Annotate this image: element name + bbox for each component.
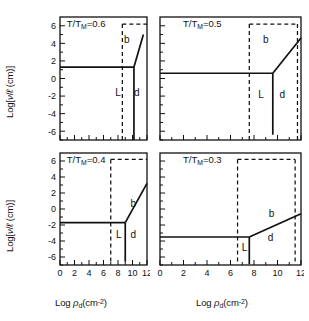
x-tick-label: 12 <box>296 268 304 278</box>
plot-svg-bottom-left: 6420-2-4-6024681012bLdT/TM=0.4 <box>38 150 150 281</box>
plot-panel-top-right: bLdT/TM=0.5 <box>154 14 304 145</box>
y-tick-label: -6 <box>48 127 56 137</box>
region-label-d: d <box>130 229 136 240</box>
y-tick-label: 6 <box>51 156 56 166</box>
region-label-d: d <box>134 87 140 98</box>
x-tick-label: 0 <box>157 268 162 278</box>
x-tick-label: 4 <box>86 268 91 278</box>
plot-svg-top-right: bLdT/TM=0.5 <box>154 14 304 145</box>
panel-title-bottom-right: T/TM=0.3 <box>183 154 222 166</box>
panel-title-top-right: T/TM=0.5 <box>183 18 222 30</box>
y-tick-label: 2 <box>51 56 56 66</box>
x-tick-label: 12 <box>142 268 150 278</box>
y-tick-label: 6 <box>51 21 56 31</box>
plot-background <box>160 153 301 265</box>
y-tick-label: -4 <box>48 236 56 246</box>
y-tick-label: 0 <box>51 74 56 84</box>
region-label-b: b <box>269 208 275 219</box>
plot-panel-bottom-left: 6420-2-4-6024681012bLdT/TM=0.4 <box>38 150 150 281</box>
region-label-L: L <box>116 229 122 240</box>
plot-svg-bottom-right: 024681012bLdT/TM=0.3 <box>154 150 304 281</box>
plot-panel-bottom-right: 024681012bLdT/TM=0.3 <box>154 150 304 281</box>
region-label-d: d <box>268 232 274 243</box>
y-tick-label: -2 <box>48 220 56 230</box>
plot-svg-top-left: 6420-2-4-6bLdT/TM=0.6 <box>38 14 150 145</box>
x-tick-label: 10 <box>127 268 137 278</box>
y-tick-label: -4 <box>48 109 56 119</box>
region-label-L: L <box>258 89 264 100</box>
figure-root: Log[ν/ℓ (cm)] Log[ν/ℓ (cm)] Log ρd(cm-2)… <box>0 0 309 321</box>
x-tick-label: 6 <box>228 268 233 278</box>
y-tick-label: -6 <box>48 252 56 262</box>
x-tick-label: 6 <box>101 268 106 278</box>
x-tick-label: 10 <box>272 268 282 278</box>
region-label-d: d <box>279 89 285 100</box>
x-tick-label: 8 <box>115 268 120 278</box>
region-label-b: b <box>263 34 269 45</box>
panel-grid: 6420-2-4-6bLdT/TM=0.6 bLdT/TM=0.5 6420-2… <box>0 0 309 321</box>
x-tick-label: 4 <box>204 268 209 278</box>
region-label-b: b <box>130 198 136 209</box>
plot-background <box>160 17 301 140</box>
y-tick-label: 4 <box>51 172 56 182</box>
x-tick-label: 2 <box>72 268 77 278</box>
y-tick-label: 4 <box>51 39 56 49</box>
y-tick-label: -2 <box>48 91 56 101</box>
panel-title-top-left: T/TM=0.6 <box>67 18 106 30</box>
y-tick-label: 2 <box>51 188 56 198</box>
plot-panel-top-left: 6420-2-4-6bLdT/TM=0.6 <box>38 14 150 145</box>
x-tick-label: 0 <box>57 268 62 278</box>
region-label-L: L <box>242 242 248 253</box>
x-tick-label: 8 <box>251 268 256 278</box>
y-tick-label: 0 <box>51 204 56 214</box>
x-tick-label: 2 <box>181 268 186 278</box>
region-label-L: L <box>115 87 121 98</box>
region-label-b: b <box>124 34 130 45</box>
panel-title-bottom-left: T/TM=0.4 <box>67 154 106 166</box>
